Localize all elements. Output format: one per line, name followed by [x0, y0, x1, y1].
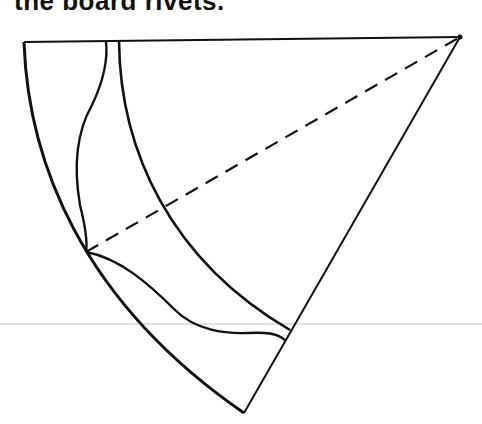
apex-point: [458, 35, 463, 40]
outer-arc: [24, 42, 244, 413]
dashed-diagonal: [86, 37, 460, 252]
sector-diagram: [0, 0, 482, 424]
top-edge: [24, 37, 460, 42]
inner-arc: [119, 41, 290, 330]
wavy-line-upper: [77, 41, 107, 252]
right-edge: [244, 37, 460, 413]
